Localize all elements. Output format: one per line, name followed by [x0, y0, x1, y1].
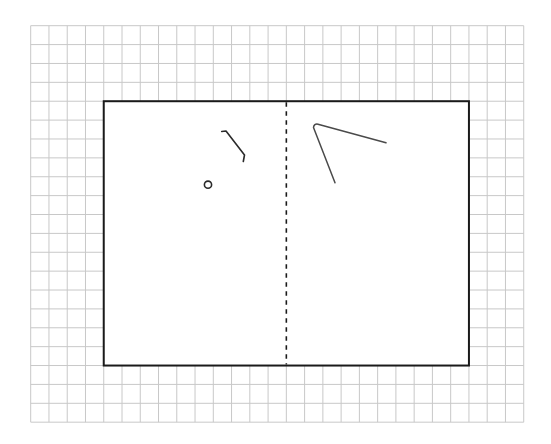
diagram-canvas: [0, 0, 551, 444]
